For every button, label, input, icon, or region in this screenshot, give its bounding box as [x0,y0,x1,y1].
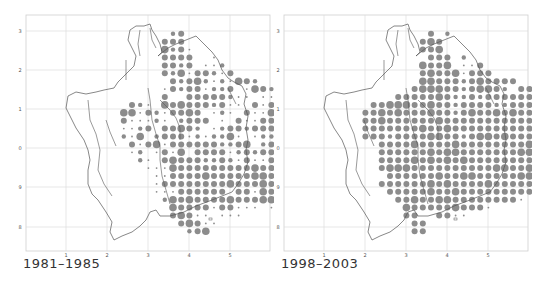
x-tick-label: 3 [404,252,407,258]
map-caption: 1981–1985 [23,256,100,271]
internal-boundary [106,120,116,146]
map-panel-1998-2003: 12345321098 1998–2003 [258,0,532,285]
y-tick-label: 8 [276,224,279,230]
y-tick-label: 2 [18,67,21,73]
distribution-map-1981-1985: 12345321098 [0,0,274,285]
y-tick-label: 0 [276,145,279,151]
y-tick-label: 1 [18,106,21,112]
map-caption: 1998–2003 [281,256,358,271]
island-marker [209,218,212,220]
island-marker [454,218,457,220]
x-tick-label: 2 [105,252,108,258]
y-tick-label: 9 [18,184,21,190]
x-tick-label: 4 [445,252,448,258]
y-tick-label: 8 [18,224,21,230]
y-tick-label: 3 [18,28,21,34]
y-tick-label: 1 [276,106,279,112]
y-tick-label: 3 [276,28,279,34]
distribution-map-1998-2003: 12345321098 [258,0,532,285]
map-panel-1981-1985: 12345321098 1981–1985 [0,0,274,285]
internal-boundary [138,30,140,56]
y-tick-label: 0 [18,145,21,151]
x-tick-label: 5 [486,252,489,258]
y-tick-label: 9 [276,184,279,190]
x-tick-label: 4 [187,252,190,258]
y-tick-label: 2 [276,67,279,73]
occurrence-dots [120,31,274,235]
internal-boundary [364,120,374,146]
x-tick-label: 2 [363,252,366,258]
internal-boundary [396,30,398,56]
x-tick-label: 3 [146,252,149,258]
x-tick-label: 5 [228,252,231,258]
